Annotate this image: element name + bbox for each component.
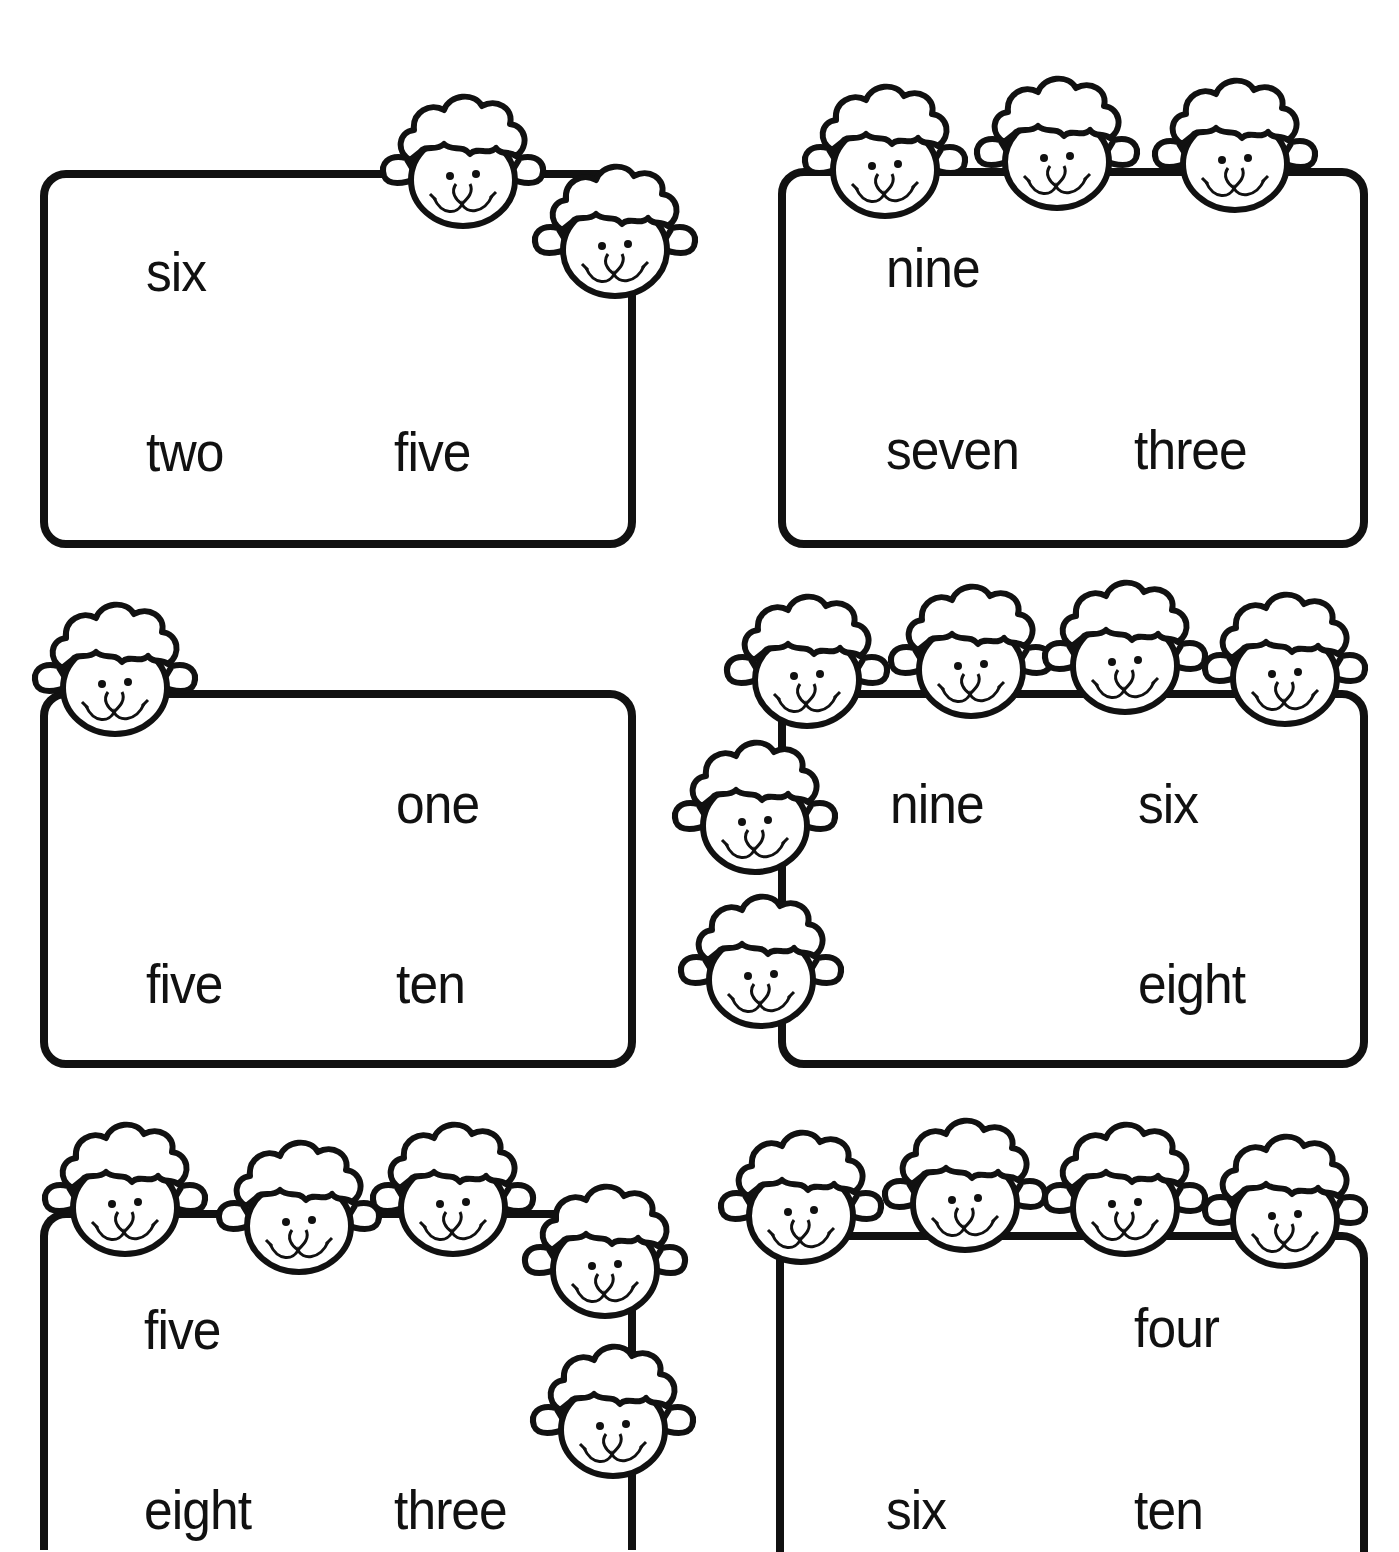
sheep-icon	[1200, 1120, 1370, 1270]
card-5-word-2: eight	[144, 1482, 251, 1538]
card-1-word-2: two	[146, 424, 223, 480]
card-4-word-1: nine	[890, 776, 984, 832]
card-6-word-1: four	[1134, 1300, 1219, 1356]
sheep-icon	[880, 1104, 1050, 1254]
word-card-4	[778, 690, 1368, 1068]
sheep-icon	[800, 70, 970, 220]
card-2-word-3: three	[1134, 422, 1247, 478]
word-card-2	[778, 168, 1368, 548]
card-3-word-1: one	[396, 776, 479, 832]
sheep-icon	[30, 588, 200, 738]
card-1-word-3: five	[394, 424, 471, 480]
card-3-word-3: ten	[396, 956, 465, 1012]
card-5-word-3: three	[394, 1482, 507, 1538]
card-5-word-1: five	[144, 1302, 221, 1358]
sheep-icon	[716, 1116, 886, 1266]
sheep-icon	[722, 580, 892, 730]
sheep-icon	[676, 880, 846, 1030]
sheep-icon	[368, 1108, 538, 1258]
sheep-icon	[528, 1330, 698, 1480]
sheep-icon	[972, 62, 1142, 212]
sheep-icon	[1040, 566, 1210, 716]
sheep-icon	[378, 80, 548, 230]
sheep-icon	[1150, 64, 1320, 214]
sheep-icon	[886, 570, 1056, 720]
card-3-word-2: five	[146, 956, 223, 1012]
word-card-3	[40, 690, 636, 1068]
card-4-word-2: six	[1138, 776, 1198, 832]
card-1-word-1: six	[146, 244, 206, 300]
sheep-icon	[520, 1170, 690, 1320]
sheep-icon	[214, 1126, 384, 1276]
sheep-icon	[530, 150, 700, 300]
word-card-6	[776, 1232, 1368, 1552]
sheep-icon	[1040, 1108, 1210, 1258]
card-2-word-2: seven	[886, 422, 1019, 478]
sheep-icon	[670, 726, 840, 876]
card-6-word-3: ten	[1134, 1482, 1203, 1538]
card-6-word-2: six	[886, 1482, 946, 1538]
sheep-icon	[1200, 578, 1370, 728]
card-4-word-3: eight	[1138, 956, 1245, 1012]
sheep-icon	[40, 1108, 210, 1258]
card-2-word-1: nine	[886, 240, 980, 296]
